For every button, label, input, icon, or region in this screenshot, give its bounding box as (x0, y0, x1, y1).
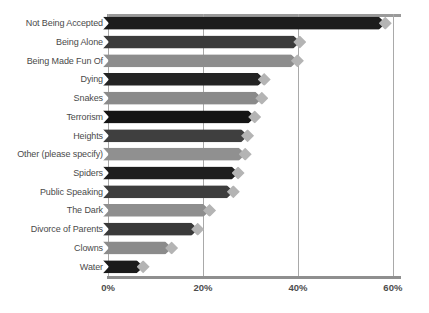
category-label: Other (please specify) (17, 150, 103, 159)
bar (103, 110, 255, 123)
category-label: The Dark (67, 206, 103, 215)
bar-row: Snakes (0, 89, 429, 108)
bar-container (103, 223, 198, 236)
bar-container (103, 36, 300, 49)
category-label: Snakes (74, 94, 103, 103)
bar-row: Public Speaking (0, 182, 429, 201)
bar-container (103, 54, 298, 67)
x-axis-tick-labels: 0%20%40%60% (0, 282, 429, 302)
category-label: Being Alone (56, 38, 103, 47)
bar (103, 223, 198, 236)
bar-container (103, 167, 239, 180)
x-tick-label: 40% (288, 282, 307, 293)
bar-row: Divorce of Parents (0, 220, 429, 239)
bar (103, 185, 234, 198)
bar-row: Not Being Accepted (0, 14, 429, 33)
bar-container (103, 185, 234, 198)
x-tick-label: 60% (383, 282, 402, 293)
bar (103, 241, 172, 254)
bar (103, 36, 300, 49)
bar-row: Spiders (0, 164, 429, 183)
bar-container (103, 92, 262, 105)
bar-container (103, 241, 172, 254)
category-label: Public Speaking (40, 187, 103, 196)
bar-row: Dying (0, 70, 429, 89)
bar-row: Other (please specify) (0, 145, 429, 164)
bar (103, 73, 265, 86)
bar (103, 129, 248, 142)
bar-container (103, 260, 144, 273)
bar (103, 204, 210, 217)
category-label: Not Being Accepted (26, 19, 103, 28)
bar-container (103, 110, 255, 123)
bar-container (103, 148, 246, 161)
bar-row: Heights (0, 126, 429, 145)
category-label: Water (80, 262, 103, 271)
category-label: Spiders (73, 169, 103, 178)
x-tick-label: 20% (193, 282, 212, 293)
bar (103, 17, 386, 30)
category-label: Clowns (74, 243, 103, 252)
bar-row: Water (0, 257, 429, 276)
category-label: Being Made Fun Of (27, 56, 103, 65)
bar-rows: Not Being AcceptedBeing AloneBeing Made … (0, 14, 429, 276)
bar (103, 92, 262, 105)
bar (103, 167, 239, 180)
category-label: Terrorism (66, 112, 103, 121)
bar-container (103, 73, 265, 86)
bar-row: Being Made Fun Of (0, 51, 429, 70)
bar-row: Terrorism (0, 108, 429, 127)
bar-container (103, 129, 248, 142)
bar (103, 54, 298, 67)
bar-row: Clowns (0, 239, 429, 258)
category-label: Dying (80, 75, 103, 84)
bar-row: The Dark (0, 201, 429, 220)
category-label: Divorce of Parents (31, 225, 103, 234)
bar-container (103, 204, 210, 217)
category-label: Heights (73, 131, 103, 140)
bar (103, 148, 246, 161)
fears-bar-chart: Not Being AcceptedBeing AloneBeing Made … (0, 0, 429, 313)
bar-container (103, 17, 386, 30)
bar-row: Being Alone (0, 33, 429, 52)
x-axis-line (107, 276, 401, 279)
x-tick-label: 0% (101, 282, 115, 293)
